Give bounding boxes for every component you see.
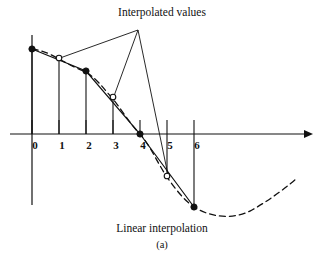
interpolated-point-x1 — [56, 55, 62, 61]
tick-label-4: 4 — [136, 140, 150, 151]
drop-lines-group — [32, 49, 194, 207]
true-function-curve — [32, 49, 296, 216]
leader-line-to-point-1 — [60, 30, 138, 58]
axes-group — [10, 35, 313, 205]
subfigure-label: (a) — [0, 240, 324, 251]
sample-point-x4 — [137, 131, 143, 137]
sample-point-x6 — [191, 204, 197, 210]
tick-label-2: 2 — [82, 140, 96, 151]
tick-label-6: 6 — [190, 140, 204, 151]
true-function-path — [32, 49, 296, 216]
tick-label-3: 3 — [109, 140, 123, 151]
sample-point-x2 — [83, 68, 89, 74]
linear-interpolation-caption: Linear interpolation — [0, 223, 324, 235]
interpolation-diagram — [0, 0, 324, 254]
tick-label-0: 0 — [28, 140, 42, 151]
interpolated-point-x5 — [164, 173, 170, 179]
figure-container: Interpolated values Linear interpolation… — [0, 0, 324, 254]
interpolated-point-x3 — [110, 94, 116, 100]
x-axis-arrowhead — [304, 130, 313, 138]
sample-point-x0 — [29, 46, 35, 52]
interpolated-values-label: Interpolated values — [0, 7, 324, 19]
leader-lines-group — [60, 30, 168, 175]
tick-label-1: 1 — [55, 140, 69, 151]
leader-line-to-point-3 — [114, 30, 138, 96]
tick-label-5: 5 — [163, 140, 177, 151]
